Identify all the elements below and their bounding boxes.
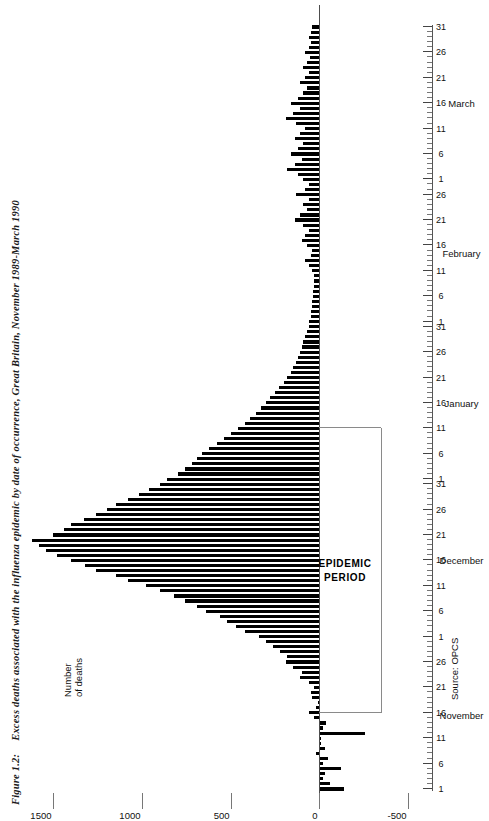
time-tick-minor bbox=[427, 783, 432, 784]
time-tick-minor bbox=[427, 148, 432, 149]
time-tick-minor bbox=[427, 605, 432, 606]
month-label: November bbox=[432, 710, 489, 721]
time-tick-minor bbox=[427, 371, 432, 372]
time-tick-label: 1 bbox=[433, 317, 449, 327]
time-tick-minor bbox=[427, 691, 432, 692]
time-tick-minor bbox=[427, 493, 432, 494]
time-tick-major bbox=[423, 194, 432, 195]
time-tick-label: 26 bbox=[433, 190, 449, 200]
time-tick-major bbox=[423, 737, 432, 738]
time-tick-minor bbox=[427, 67, 432, 68]
time-tick-label: 1 bbox=[433, 474, 449, 484]
time-tick-minor bbox=[427, 742, 432, 743]
time-tick-minor bbox=[427, 620, 432, 621]
time-tick-minor bbox=[427, 524, 432, 525]
time-tick-label: 11 bbox=[433, 266, 449, 276]
time-tick-minor bbox=[427, 346, 432, 347]
month-label: December bbox=[432, 555, 489, 566]
time-tick-major bbox=[423, 178, 432, 179]
time-tick-minor bbox=[427, 36, 432, 37]
time-tick-minor bbox=[427, 183, 432, 184]
time-tick-label: 26 bbox=[433, 505, 449, 515]
value-axis-title: Number of deaths bbox=[62, 658, 84, 697]
time-tick-minor bbox=[427, 87, 432, 88]
time-tick-minor bbox=[427, 707, 432, 708]
time-tick-minor bbox=[427, 285, 432, 286]
time-tick-minor bbox=[427, 82, 432, 83]
time-tick-minor bbox=[427, 590, 432, 591]
time-tick-minor bbox=[427, 473, 432, 474]
time-tick-minor bbox=[427, 752, 432, 753]
time-tick-minor bbox=[427, 656, 432, 657]
time-tick-minor bbox=[427, 112, 432, 113]
time-tick-label: 21 bbox=[433, 215, 449, 225]
time-tick-minor bbox=[427, 651, 432, 652]
time-tick-label: 6 bbox=[433, 291, 449, 301]
time-tick-major bbox=[423, 270, 432, 271]
time-tick-label: 6 bbox=[433, 759, 449, 769]
time-tick-minor bbox=[427, 773, 432, 774]
time-tick-minor bbox=[427, 356, 432, 357]
time-tick-minor bbox=[427, 336, 432, 337]
epidemic-label-line2: PERIOD bbox=[324, 572, 366, 583]
time-tick-minor bbox=[427, 56, 432, 57]
time-tick-minor bbox=[427, 437, 432, 438]
time-tick-minor bbox=[427, 595, 432, 596]
source-note: Source: OPCS bbox=[449, 638, 460, 700]
time-tick-minor bbox=[427, 727, 432, 728]
time-tick-minor bbox=[427, 702, 432, 703]
time-tick-minor bbox=[427, 204, 432, 205]
time-tick-minor bbox=[427, 747, 432, 748]
time-tick-minor bbox=[427, 72, 432, 73]
time-tick-minor bbox=[427, 468, 432, 469]
time-tick-minor bbox=[427, 722, 432, 723]
time-tick-minor bbox=[427, 778, 432, 779]
time-tick-minor bbox=[427, 361, 432, 362]
time-tick-label: 26 bbox=[433, 47, 449, 57]
month-label: January bbox=[432, 397, 489, 408]
time-tick-label: 26 bbox=[433, 657, 449, 667]
time-tick-minor bbox=[427, 463, 432, 464]
value-axis-title-line1: Number bbox=[62, 658, 73, 697]
time-tick-major bbox=[423, 295, 432, 296]
time-tick-major bbox=[423, 478, 432, 479]
time-tick-major bbox=[423, 534, 432, 535]
time-tick-minor bbox=[427, 529, 432, 530]
time-tick-minor bbox=[427, 732, 432, 733]
time-tick-minor bbox=[427, 514, 432, 515]
time-tick-minor bbox=[427, 163, 432, 164]
time-tick-minor bbox=[427, 697, 432, 698]
time-tick-minor bbox=[427, 290, 432, 291]
time-tick-major bbox=[423, 351, 432, 352]
time-tick-minor bbox=[427, 168, 432, 169]
time-tick-minor bbox=[427, 265, 432, 266]
time-tick-minor bbox=[427, 443, 432, 444]
time-tick-minor bbox=[427, 310, 432, 311]
time-tick-minor bbox=[427, 412, 432, 413]
time-tick-label: 21 bbox=[433, 530, 449, 540]
time-tick-label: 6 bbox=[433, 606, 449, 616]
time-tick-label: 1 bbox=[433, 632, 449, 642]
time-tick-minor bbox=[427, 666, 432, 667]
epidemic-label-line1: EPIDEMIC bbox=[319, 558, 372, 569]
time-tick-minor bbox=[427, 143, 432, 144]
time-tick-major bbox=[423, 377, 432, 378]
time-tick-major bbox=[423, 636, 432, 637]
time-tick-minor bbox=[427, 209, 432, 210]
time-tick-major bbox=[423, 51, 432, 52]
time-tick-minor bbox=[427, 62, 432, 63]
time-tick-minor bbox=[427, 158, 432, 159]
time-tick-minor bbox=[427, 631, 432, 632]
time-tick-minor bbox=[427, 549, 432, 550]
time-tick-major bbox=[423, 483, 432, 484]
time-tick-major bbox=[423, 788, 432, 789]
time-tick-minor bbox=[427, 417, 432, 418]
time-tick-minor bbox=[427, 275, 432, 276]
time-tick-label: 1 bbox=[433, 174, 449, 184]
time-tick-major bbox=[423, 244, 432, 245]
time-tick-major bbox=[423, 128, 432, 129]
time-tick-major bbox=[423, 763, 432, 764]
time-tick-major bbox=[423, 585, 432, 586]
time-tick-minor bbox=[427, 387, 432, 388]
time-tick-label: 1 bbox=[433, 784, 449, 794]
